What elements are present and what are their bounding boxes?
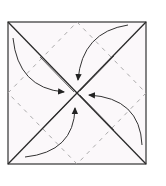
origami-pinwheel-diagram	[0, 0, 166, 186]
